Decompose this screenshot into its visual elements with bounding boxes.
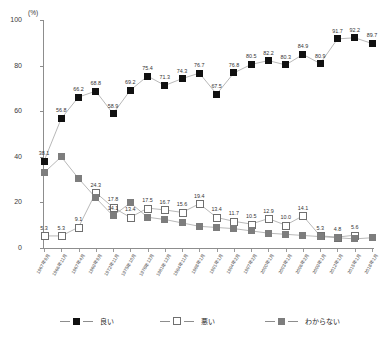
- data-point-marker: [299, 232, 306, 239]
- data-point-marker: [41, 232, 49, 240]
- legend-marker-icon: [278, 318, 285, 325]
- data-point-marker: [75, 224, 83, 232]
- data-point-marker: [196, 223, 203, 230]
- data-point-label: 9.1: [75, 216, 83, 222]
- data-point-marker: [248, 61, 255, 68]
- data-point-marker: [179, 209, 187, 217]
- legend-marker-icon: [73, 318, 80, 325]
- data-point-marker: [92, 194, 99, 201]
- legend-line-icon: [160, 321, 170, 322]
- data-point-marker: [92, 88, 99, 95]
- legend-label: 悪い: [201, 316, 215, 326]
- data-point-marker: [144, 205, 152, 213]
- data-point-label: 19.4: [194, 193, 205, 199]
- legend-line-icon: [184, 321, 194, 322]
- legend-item-3[interactable]: わからない: [265, 316, 340, 326]
- data-point-label: 58.9: [108, 103, 119, 109]
- data-point-marker: [299, 51, 306, 58]
- data-point-marker: [127, 199, 134, 206]
- data-point-label: 5.3: [40, 225, 48, 231]
- data-point-label: 71.3: [160, 74, 171, 80]
- data-point-marker: [334, 35, 341, 42]
- data-point-label: 15.6: [177, 201, 188, 207]
- data-point-marker: [179, 219, 186, 226]
- data-point-marker: [282, 222, 290, 230]
- data-point-label: 74.3: [177, 68, 188, 74]
- legend-line-icon: [288, 321, 298, 322]
- data-point-label: 10.5: [246, 213, 257, 219]
- data-point-marker: [75, 175, 82, 182]
- data-point-marker: [351, 34, 358, 41]
- data-point-marker: [213, 214, 221, 222]
- series-lines: [0, 0, 385, 344]
- data-point-marker: [179, 75, 186, 82]
- legend-item-2[interactable]: 悪い: [160, 316, 215, 326]
- data-point-label: 11.7: [229, 210, 239, 216]
- data-point-marker: [110, 110, 117, 117]
- data-point-label: 13.4: [125, 206, 136, 212]
- data-point-marker: [196, 70, 203, 77]
- data-point-marker: [317, 233, 324, 240]
- legend-marker-icon: [173, 317, 181, 325]
- data-point-marker: [144, 73, 151, 80]
- data-point-marker: [265, 215, 273, 223]
- legend-label: わからない: [305, 316, 340, 326]
- data-point-label: 56.8: [56, 107, 67, 113]
- data-point-label: 4.8: [334, 226, 342, 232]
- data-point-marker: [230, 69, 237, 76]
- data-point-marker: [161, 82, 168, 89]
- data-point-label: 75.4: [142, 65, 153, 71]
- data-point-marker: [369, 40, 376, 47]
- data-point-marker: [127, 87, 134, 94]
- chart-legend: 良い悪いわからない: [60, 316, 350, 334]
- data-point-marker: [58, 115, 65, 122]
- data-point-label: 89.7: [367, 32, 378, 38]
- legend-line-icon: [60, 321, 70, 322]
- data-point-label: 91.7: [332, 28, 343, 34]
- data-point-label: 16.7: [160, 199, 171, 205]
- data-point-marker: [144, 214, 151, 221]
- data-point-label: 14.1: [298, 205, 309, 211]
- data-point-label: 5.3: [316, 225, 324, 231]
- data-point-marker: [265, 57, 272, 64]
- data-point-label: 67.5: [211, 83, 222, 89]
- data-point-marker: [334, 234, 341, 241]
- legend-line-icon: [265, 321, 275, 322]
- data-point-marker: [196, 200, 204, 208]
- data-point-label: 84.9: [298, 43, 309, 49]
- data-point-marker: [265, 230, 272, 237]
- data-point-marker: [161, 216, 168, 223]
- data-point-label: 92.2: [349, 27, 360, 33]
- data-point-label: 5.6: [351, 224, 359, 230]
- data-point-marker: [213, 224, 220, 231]
- data-point-marker: [58, 232, 66, 240]
- data-point-marker: [161, 206, 169, 214]
- data-point-marker: [230, 225, 237, 232]
- data-point-label: 68.8: [91, 80, 102, 86]
- data-point-marker: [351, 235, 358, 242]
- data-point-marker: [282, 231, 289, 238]
- legend-line-icon: [83, 321, 93, 322]
- data-point-label: 24.3: [91, 182, 102, 188]
- data-point-label: 66.2: [73, 86, 84, 92]
- data-point-label: 69.2: [125, 79, 136, 85]
- legend-item-1[interactable]: 良い: [60, 316, 114, 326]
- data-point-label: 5.3: [58, 225, 66, 231]
- data-point-marker: [248, 227, 255, 234]
- data-point-marker: [58, 153, 65, 160]
- data-point-marker: [299, 212, 307, 220]
- data-point-label: 80.9: [315, 53, 326, 59]
- data-point-marker: [41, 169, 48, 176]
- data-point-label: 80.5: [246, 53, 257, 59]
- data-point-marker: [317, 60, 324, 67]
- data-point-label: 82.2: [263, 50, 274, 56]
- data-point-label: 80.3: [280, 54, 291, 60]
- series-line: [44, 193, 355, 237]
- line-chart: (%) 020406080100 1967年9月1966年11月1967年4月1…: [0, 0, 385, 344]
- data-point-label: 17.5: [142, 197, 153, 203]
- data-point-marker: [127, 214, 135, 222]
- data-point-label: 38.1: [39, 150, 50, 156]
- data-point-label: 76.7: [194, 62, 205, 68]
- data-point-marker: [75, 94, 82, 101]
- data-point-marker: [110, 212, 117, 219]
